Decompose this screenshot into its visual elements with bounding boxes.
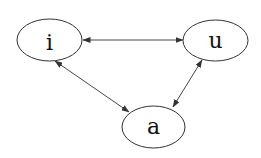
- node-i-label: i: [46, 30, 53, 55]
- node-i: i: [17, 19, 82, 61]
- edge-i-a: [55, 61, 129, 112]
- edge-u-a: [173, 60, 202, 107]
- vowel-graph-diagram: i u a: [0, 0, 261, 158]
- node-u-label: u: [208, 28, 222, 53]
- node-a: a: [122, 106, 185, 148]
- node-u: u: [183, 20, 248, 61]
- node-a-label: a: [147, 114, 160, 139]
